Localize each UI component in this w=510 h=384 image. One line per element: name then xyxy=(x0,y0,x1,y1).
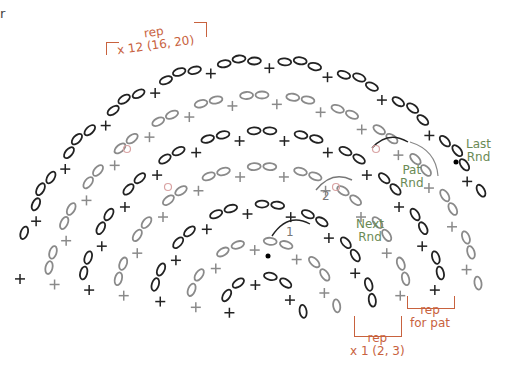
chain-icon xyxy=(318,268,331,283)
chain-icon xyxy=(182,225,196,239)
chain-icon xyxy=(34,182,47,197)
chain-icon xyxy=(44,260,54,274)
chain-icon xyxy=(117,93,132,106)
rep-top-bracket-right xyxy=(194,22,207,37)
chain-icon xyxy=(118,256,129,271)
chain-icon xyxy=(172,67,187,78)
chain-icon xyxy=(278,277,293,290)
chain-icon xyxy=(256,201,269,208)
chain-icon xyxy=(409,207,422,222)
chain-icon xyxy=(91,163,105,177)
chain-icon xyxy=(339,236,353,250)
chain-icon xyxy=(307,255,321,269)
chain-icon xyxy=(201,171,216,182)
chain-icon xyxy=(377,171,391,185)
chain-icon xyxy=(474,276,483,290)
chain-icon xyxy=(330,103,345,114)
chain-icon xyxy=(352,72,367,83)
chain-icon xyxy=(113,272,123,286)
chain-icon xyxy=(365,81,380,93)
chain-icon xyxy=(140,215,154,230)
chain-icon xyxy=(131,88,146,100)
chain-icon xyxy=(438,188,451,203)
chain-icon xyxy=(19,226,30,241)
chain-icon xyxy=(416,113,430,127)
chain-icon xyxy=(368,293,377,307)
rep-bottom-label: rep x 1 (2, 3) xyxy=(350,332,405,358)
pat-rnd-label: Pat Rnd xyxy=(400,164,424,190)
marker-circle xyxy=(373,146,380,153)
chain-icon xyxy=(279,240,294,251)
chain-icon xyxy=(155,262,167,277)
last-rnd-label: Last Rnd xyxy=(466,138,491,164)
chain-icon xyxy=(161,193,176,207)
chain-icon xyxy=(216,166,230,176)
chain-icon xyxy=(247,127,260,135)
chain-icon xyxy=(438,134,452,148)
chain-icon xyxy=(81,175,94,190)
chain-icon xyxy=(106,104,121,117)
chain-icon xyxy=(348,193,363,207)
chain-icon xyxy=(308,62,322,72)
chain-icon xyxy=(430,250,441,265)
chain-icon xyxy=(271,201,285,210)
chain-icon xyxy=(395,256,406,271)
chain-icon xyxy=(294,130,308,140)
chain-icon xyxy=(263,237,277,245)
chain-icon xyxy=(70,132,84,146)
chain-icon xyxy=(79,266,89,280)
chain-icon xyxy=(216,246,231,259)
chain-icon xyxy=(466,245,477,259)
step-1-label: 1 xyxy=(286,226,294,239)
chain-icon xyxy=(174,184,189,197)
chain-icon xyxy=(460,230,471,245)
chain-icon xyxy=(338,145,353,157)
chain-icon xyxy=(187,65,201,75)
chain-icon xyxy=(337,69,352,80)
chain-icon xyxy=(171,236,185,250)
chain-icon xyxy=(30,197,42,212)
chain-icon xyxy=(299,304,308,318)
chain-icon xyxy=(171,145,186,157)
chain-icon xyxy=(450,143,464,157)
chain-icon xyxy=(309,134,323,145)
chain-icon xyxy=(48,245,59,259)
chain-icon xyxy=(263,272,277,281)
chain-icon xyxy=(352,153,367,166)
chain-icon xyxy=(131,228,144,243)
chain-icon xyxy=(263,127,276,135)
rep-pat-label: rep for pat xyxy=(410,304,450,330)
chain-icon xyxy=(417,221,429,236)
chain-icon xyxy=(345,109,360,121)
chain-icon xyxy=(363,277,374,291)
chain-icon xyxy=(308,171,323,182)
chain-icon xyxy=(65,202,77,217)
chain-icon xyxy=(133,171,147,185)
chain-icon xyxy=(405,101,420,114)
chain-icon xyxy=(256,92,269,99)
marker-circle xyxy=(165,184,172,191)
chain-icon xyxy=(217,59,231,68)
chain-icon xyxy=(301,208,316,220)
chain-icon xyxy=(220,288,233,303)
chain-icon xyxy=(314,215,329,228)
chain-icon xyxy=(95,221,107,236)
chain-icon xyxy=(165,109,180,121)
chain-icon xyxy=(286,93,300,102)
chain-icon xyxy=(293,56,307,65)
chain-icon xyxy=(58,216,70,231)
chain-icon xyxy=(278,58,292,66)
chain-icon xyxy=(102,207,115,222)
chain-icon xyxy=(447,202,459,217)
chain-icon xyxy=(121,182,135,196)
chain-icon xyxy=(224,203,238,213)
start-dot-last xyxy=(454,160,459,165)
chain-icon xyxy=(158,153,173,166)
start-dot-next xyxy=(266,254,271,259)
chain-icon xyxy=(83,123,97,137)
chain-icon xyxy=(349,248,362,263)
chain-icon xyxy=(293,166,307,176)
chain-icon xyxy=(336,184,351,197)
chain-icon xyxy=(159,75,174,86)
chain-icon xyxy=(209,95,223,105)
